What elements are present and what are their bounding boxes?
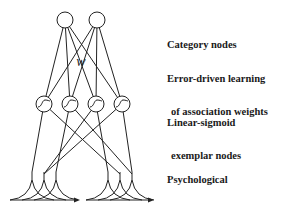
label-line: Linear-sigmoid [167, 117, 241, 128]
psychological-nodes-label: Psychological scale value nodes; error-d… [167, 152, 251, 209]
exemplar-input-line [44, 109, 116, 174]
category-node [89, 12, 105, 28]
category-node [57, 12, 73, 28]
node-layer [10, 12, 154, 203]
label-line: Error-driven learning [167, 73, 268, 84]
label-line: Category nodes [167, 39, 237, 50]
association-weight-line [65, 28, 69, 96]
association-weight-line [46, 28, 63, 96]
label-line: scale value nodes; [167, 207, 251, 209]
network-diagram: w [0, 0, 160, 209]
association-weight-line [96, 28, 97, 96]
exemplar-input-line [44, 110, 91, 174]
exemplar-input-line [123, 112, 132, 172]
exemplar-node [88, 96, 104, 112]
exemplar-input-line [32, 112, 43, 172]
exemplar-node [62, 96, 78, 112]
label-line: Psychological [167, 174, 251, 185]
weight-symbol: w [76, 54, 86, 69]
exemplar-node [114, 96, 130, 112]
exemplar-node [36, 96, 52, 112]
